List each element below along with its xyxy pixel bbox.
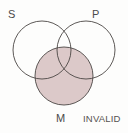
validity-verdict-label: INVALID <box>83 114 121 124</box>
venn-diagram-figure: S P M INVALID <box>0 0 128 133</box>
circle-label-s: S <box>8 9 15 20</box>
circle-label-m: M <box>56 113 65 124</box>
circle-label-p: P <box>92 9 99 20</box>
